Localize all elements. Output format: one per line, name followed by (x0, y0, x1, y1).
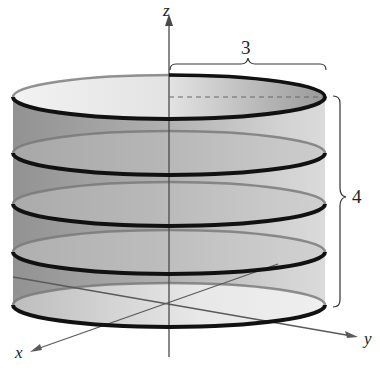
y-axis-arrow (345, 331, 358, 338)
cylinder-diagram: z y x 3 4 (0, 0, 380, 375)
height-brace (333, 96, 346, 307)
height-label: 4 (352, 186, 362, 208)
radius-brace (170, 58, 326, 70)
radius-label: 3 (241, 37, 251, 59)
x-axis-arrow (30, 344, 42, 352)
x-axis-label: x (15, 343, 23, 363)
y-axis-label: y (364, 329, 372, 349)
cylinder-svg (0, 0, 380, 375)
z-axis-label: z (163, 1, 170, 21)
